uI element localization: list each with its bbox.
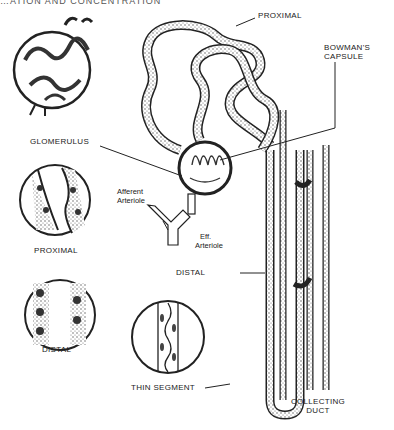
glomerulus-inset-icon (14, 18, 92, 116)
bowmans-capsule-label-line2: CAPSULE (324, 53, 363, 62)
glomerulus-label: GLOMERULUS (30, 138, 89, 147)
thin-segment-inset-icon (132, 301, 204, 373)
efferent-arteriole-label-line1: Eff. (200, 233, 211, 241)
loop-of-henle-icon (270, 110, 300, 415)
proximal-inset-label: PROXIMAL (34, 247, 78, 256)
proximal-tubule-icon (146, 25, 274, 150)
distal-inset-icon (25, 280, 95, 350)
nephron-diagram (0, 0, 394, 430)
afferent-arteriole-label-line1: Afferent (117, 188, 143, 196)
efferent-arteriole-icon (188, 194, 195, 214)
collecting-duct-label-line2: DUCT (288, 407, 348, 416)
thin-segment-label: THIN SEGMENT (131, 384, 195, 393)
distal-label: DISTAL (176, 269, 205, 278)
afferent-arteriole-label-line2: Arteriole (117, 197, 145, 205)
afferent-arteriole-icon (148, 205, 190, 245)
distal-inset-label: DISTAL (42, 346, 71, 355)
efferent-arteriole-label-line2: Arteriole (195, 242, 223, 250)
proximal-inset-icon (20, 165, 90, 235)
proximal-label: PROXIMAL (258, 12, 302, 21)
bowmans-capsule-icon (179, 142, 231, 194)
